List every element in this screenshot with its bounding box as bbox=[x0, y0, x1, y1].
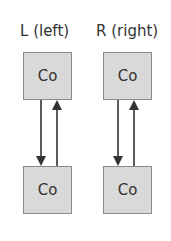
left-up-arrow-icon bbox=[52, 100, 62, 166]
right-up-arrow-icon bbox=[129, 100, 139, 166]
right-down-arrow-icon bbox=[113, 100, 123, 166]
left-down-arrow-icon bbox=[36, 100, 46, 166]
arrows bbox=[0, 0, 171, 241]
